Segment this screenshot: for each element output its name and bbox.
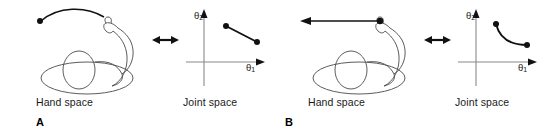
axis-label-theta2: θ2 [194, 10, 203, 21]
axis-label-theta1: θ1 [518, 62, 527, 73]
arm-outline [376, 17, 405, 86]
hand-trajectory-curved [41, 9, 104, 21]
equivalence-arrow [424, 36, 451, 44]
hand-space-caption: Hand space [308, 96, 365, 108]
joint-space-caption: Joint space [183, 96, 237, 108]
figure-root: θ2 θ1 Hand space Joint space A [0, 0, 551, 138]
hand-trajectory-endpoint [37, 18, 43, 24]
equivalence-arrow [152, 36, 179, 44]
body-outline [313, 51, 405, 94]
panel-a: θ2 θ1 Hand space Joint space A [0, 0, 275, 138]
axis-label-theta2: θ2 [466, 10, 475, 21]
hand-trajectory-straight [300, 17, 383, 25]
arm-outline [104, 17, 133, 86]
joint-space-path-curved [493, 21, 530, 48]
joint-space-path-straight [223, 23, 260, 45]
hand-space-caption: Hand space [36, 96, 93, 108]
panel-letter-b: B [285, 116, 293, 128]
panel-b: θ2 θ1 Hand space Joint space B [272, 0, 547, 138]
panel-letter-a: A [36, 116, 44, 128]
body-outline [41, 51, 133, 94]
joint-space-caption: Joint space [455, 96, 509, 108]
panel-b-graphics [272, 0, 547, 138]
axis-label-theta1: θ1 [246, 62, 255, 73]
